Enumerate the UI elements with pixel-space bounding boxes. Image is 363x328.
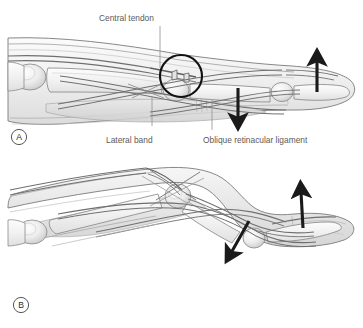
metacarpal-shaft-b: [8, 220, 25, 246]
metacarpal-shaft: [8, 62, 24, 91]
dip-hyperextension-arrow: [301, 192, 303, 228]
label-lateral-band: Lateral band: [106, 135, 153, 145]
panel-a-letter-text: A: [16, 132, 22, 142]
panel-a-letter: A: [11, 129, 26, 144]
panel-b-letter-text: B: [18, 300, 24, 310]
label-oblique-retinacular-ligament: Oblique retinacular ligament: [203, 135, 308, 145]
distal-phalanx: [294, 85, 349, 101]
central-tendon-rupture-distal-stump: [184, 73, 189, 82]
label-central-tendon: Central tendon: [99, 13, 154, 23]
central-tendon-rupture-proximal-stump: [172, 70, 177, 80]
dip-condyle-b: [243, 228, 265, 248]
panel-b-letter: B: [13, 297, 28, 312]
extensor-mechanism-figure: Central tendon Lateral band Oblique reti…: [0, 0, 363, 328]
